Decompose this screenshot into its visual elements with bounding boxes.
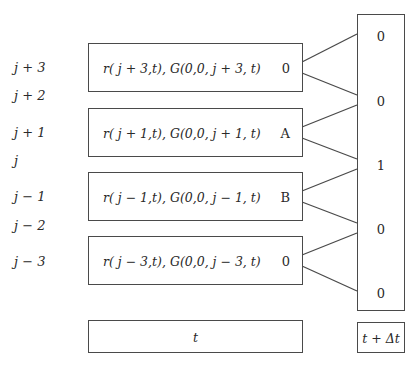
node-value: 0 — [282, 253, 290, 268]
node-j-plus-3: r( j + 3,t), G(0,0, j + 3, t) 0 — [88, 43, 303, 92]
edge-1-2 — [302, 138, 357, 159]
next-value-3: 0 — [358, 222, 404, 237]
node-value: A — [281, 125, 290, 140]
edge-0-1 — [302, 73, 357, 95]
next-value-2: 1 — [358, 158, 404, 173]
edge-2-2 — [302, 169, 357, 191]
node-j-minus-1: r( j − 1,t), G(0,0, j − 1, t) B — [88, 172, 303, 221]
time-t-box: t — [88, 320, 303, 353]
node-label: r( j − 3,t), G(0,0, j − 3, t) — [103, 253, 261, 268]
next-value-0: 0 — [358, 29, 404, 44]
edge-0-0 — [302, 34, 357, 62]
edge-3-3 — [302, 233, 357, 255]
time-t-plus-dt-box: t + Δt — [357, 322, 405, 353]
node-label: r( j + 3,t), G(0,0, j + 3, t) — [103, 60, 261, 75]
node-j-plus-1: r( j + 1,t), G(0,0, j + 1, t) A — [88, 108, 303, 157]
next-value-1: 0 — [358, 94, 404, 109]
node-label: r( j − 1,t), G(0,0, j − 1, t) — [103, 189, 261, 204]
edge-2-3 — [302, 202, 357, 223]
time-t-plus-dt-label: t + Δt — [358, 330, 404, 345]
node-j-minus-3: r( j − 3,t), G(0,0, j − 3, t) 0 — [88, 236, 303, 285]
edge-1-1 — [302, 105, 357, 127]
next-step-column: 0 0 1 0 0 — [357, 14, 405, 311]
time-t-label: t — [89, 329, 302, 344]
node-label: r( j + 1,t), G(0,0, j + 1, t) — [103, 125, 261, 140]
edge-3-4 — [302, 266, 357, 291]
node-value: B — [280, 189, 290, 204]
next-value-4: 0 — [358, 286, 404, 301]
node-value: 0 — [282, 60, 290, 75]
